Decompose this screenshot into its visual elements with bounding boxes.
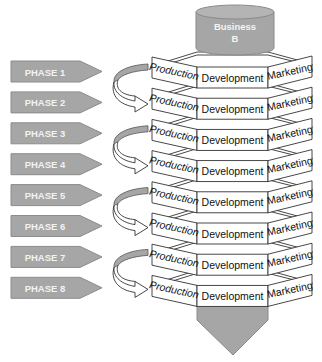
tier-development-label: Development [202, 290, 264, 302]
curved-arrow-icon [113, 249, 148, 297]
phase-label: PHASE 6 [25, 221, 66, 232]
phase-label: PHASE 1 [25, 67, 66, 78]
tier-layer: ProductionDevelopmentMarketing [148, 177, 313, 213]
phase-7-arrow: PHASE 7 [11, 246, 102, 267]
tier-layer: ProductionDevelopmentMarketing [148, 208, 313, 244]
tier-layer: ProductionDevelopmentMarketing [148, 239, 313, 275]
tier-development-label: Development [202, 103, 264, 115]
tier-layer: ProductionDevelopmentMarketing [148, 146, 313, 182]
tier-layer: ProductionDevelopmentMarketing [148, 52, 313, 88]
cylinder-label-line2: B [232, 33, 239, 44]
phase-label: PHASE 3 [25, 128, 66, 139]
tier-layer: ProductionDevelopmentMarketing [148, 114, 313, 150]
tier-development-label: Development [202, 259, 264, 271]
phase-6-arrow: PHASE 6 [11, 216, 102, 237]
curved-arrow-icon [113, 188, 148, 236]
tier-development-label: Development [202, 134, 264, 146]
phase-4-arrow: PHASE 4 [11, 154, 102, 175]
down-arrow-icon [197, 300, 268, 355]
curved-arrow-column [113, 64, 148, 297]
tier-development-label: Development [202, 228, 264, 240]
phase-label: PHASE 4 [25, 159, 66, 170]
phase-1-arrow: PHASE 1 [11, 61, 102, 82]
phase-5-arrow: PHASE 5 [11, 185, 102, 206]
cylinder-label-line1: Business [214, 21, 256, 32]
business-cylinder: Business B [196, 5, 274, 55]
phase-label: PHASE 8 [25, 283, 66, 294]
tier-layer: ProductionDevelopmentMarketing [148, 83, 313, 119]
curved-arrow-icon [113, 126, 148, 174]
phase-label: PHASE 5 [25, 190, 66, 201]
tier-stack: ProductionDevelopmentMarketingProduction… [148, 52, 313, 306]
phase-2-arrow: PHASE 2 [11, 92, 102, 113]
phase-tier-diagram: ProductionDevelopmentMarketingProduction… [0, 0, 322, 362]
tier-layer: ProductionDevelopmentMarketing [148, 270, 313, 306]
curved-arrow-icon [113, 64, 148, 112]
phase-3-arrow: PHASE 3 [11, 123, 102, 144]
tier-development-label: Development [202, 72, 264, 84]
tier-development-label: Development [202, 165, 264, 177]
phase-column: PHASE 1PHASE 2PHASE 3PHASE 4PHASE 5PHASE… [11, 61, 102, 298]
phase-label: PHASE 2 [25, 97, 66, 108]
tier-development-label: Development [202, 196, 264, 208]
phase-label: PHASE 7 [25, 252, 66, 263]
phase-8-arrow: PHASE 8 [11, 277, 102, 298]
